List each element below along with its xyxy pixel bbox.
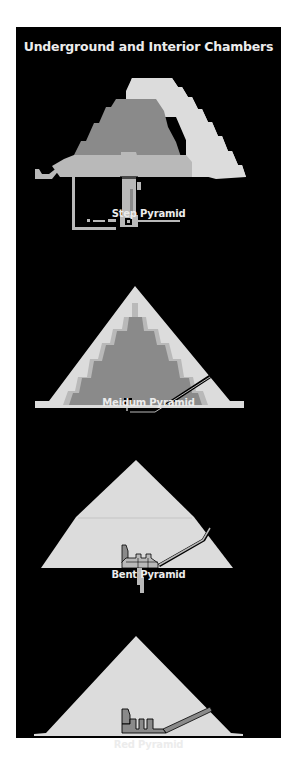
step-pyramid-label: Step Pyramid — [16, 208, 281, 219]
pyramid-cross-sections — [16, 27, 281, 738]
red-pyramid-figure — [34, 636, 243, 736]
meidum-pyramid-label: Meidum Pyramid — [16, 397, 281, 408]
red-pyramid-label: Red Pyramid — [16, 739, 281, 750]
bent-pyramid-label: Bent Pyramid — [16, 569, 281, 580]
diagram-panel: Underground and Interior Chambers — [16, 27, 281, 738]
meidum-pyramid-figure — [35, 286, 244, 414]
